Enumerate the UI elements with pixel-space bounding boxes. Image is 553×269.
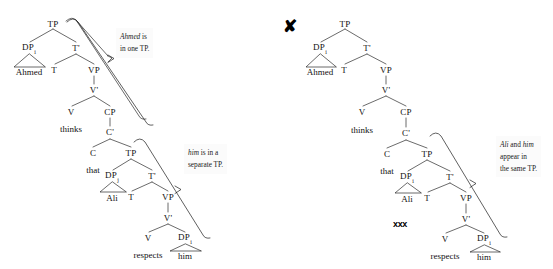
- tree-node-t: T: [51, 66, 57, 75]
- tree-node-vp: VP: [460, 194, 472, 203]
- tree-terminal-ahmed: Ahmed: [307, 68, 334, 77]
- annotation-text: is: [140, 32, 147, 41]
- tree-node-v: V: [68, 108, 75, 117]
- annotation-ali-him-same-tp: Ali and himappear inthe same TP.: [496, 136, 541, 177]
- tree-node-tbar: T': [148, 172, 156, 181]
- annotation-text: in one TP.: [120, 44, 149, 53]
- annotation-line: Ahmed is: [120, 31, 149, 43]
- tree-terminal-him: him: [477, 253, 491, 262]
- annotation-italic-term: him: [188, 148, 199, 157]
- tree-node-cbar: C': [106, 128, 114, 137]
- annotation-text: the same TP.: [500, 164, 537, 173]
- tree-node-vbar: V': [90, 86, 99, 95]
- tree-terminal-respects: respects: [134, 251, 163, 260]
- tree-node-vbar: V': [382, 86, 391, 95]
- tree-terminal-ahmed: Ahmed: [16, 68, 43, 77]
- annotation-italic-term: him: [523, 140, 534, 149]
- tree-node-v: V: [359, 108, 366, 117]
- tree-node-vbar: V': [462, 215, 471, 224]
- annotation-text: appear in: [500, 152, 527, 161]
- tree-node-tp: TP: [340, 20, 351, 29]
- annotation-him-separate-tp: him is in aseparate TP.: [184, 144, 227, 174]
- syntax-tree-figure: TPDPiT'TVPV'VCPC'CTPDPjT'TVPV'VDPiAhmedt…: [0, 0, 553, 269]
- tree-node-dp: DPi: [22, 43, 36, 54]
- tree-terminal-that: that: [86, 166, 100, 175]
- annotation-line: in one TP.: [120, 43, 149, 55]
- tree-node-dp: DPi: [477, 234, 491, 245]
- tree-node-vp: VP: [88, 66, 100, 75]
- tree-node-t: T: [128, 193, 134, 202]
- tree-node-dp: DPi: [178, 233, 192, 244]
- annotation-text: is in a: [199, 148, 218, 157]
- tree-node-tp: TP: [422, 150, 433, 159]
- tree-terminal-ali: Ali: [106, 194, 118, 203]
- annotation-line: the same TP.: [500, 163, 537, 175]
- annotation-line: appear in: [500, 151, 537, 163]
- tree-node-tp: TP: [48, 20, 59, 29]
- tree-node-dp: DPi: [400, 172, 414, 183]
- annotation-italic-term: Ahmed: [120, 32, 140, 41]
- tree-node-v: V: [145, 234, 152, 243]
- tree-node-vp: VP: [162, 193, 174, 202]
- tree-node-c: C: [90, 149, 96, 158]
- tree-terminal-respects: respects: [431, 252, 460, 261]
- tree-terminal-thinks: thinks: [351, 126, 373, 135]
- tree-terminal-him: him: [178, 252, 192, 261]
- tree-node-cp: CP: [104, 108, 115, 117]
- node-index-subscript: i: [489, 240, 491, 246]
- node-index-subscript: i: [412, 178, 414, 184]
- annotation-line: separate TP.: [188, 159, 223, 171]
- node-index-subscript: i: [325, 49, 327, 55]
- tree-node-tbar: T': [72, 44, 80, 53]
- annotation-text: and: [509, 140, 523, 149]
- node-index-subscript: j: [117, 177, 119, 183]
- annotation-ahmed-one-tp: Ahmed isin one TP.: [116, 28, 153, 58]
- tree-terminal-ali: Ali: [401, 195, 413, 204]
- left-tree-branches: [14, 29, 201, 251]
- tree-node-cp: CP: [400, 108, 411, 117]
- tree-node-v: V: [442, 235, 449, 244]
- ungrammatical-x-mark: ✘: [283, 18, 297, 35]
- tree-node-dp: DPi: [313, 43, 327, 54]
- tree-node-vbar: V': [164, 214, 173, 223]
- tree-node-vp: VP: [380, 66, 392, 75]
- annotation-text: separate TP.: [188, 160, 223, 169]
- tree-node-cbar: C': [402, 129, 410, 138]
- tree-node-tbar: T': [446, 173, 454, 182]
- node-index-subscript: i: [34, 49, 36, 55]
- annotation-italic-term: Ali: [500, 140, 509, 149]
- tree-node-c: C: [384, 150, 390, 159]
- tree-terminal-thinks: thinks: [60, 125, 82, 134]
- node-index-subscript: i: [190, 239, 192, 245]
- tree-terminal-that: that: [380, 167, 394, 176]
- tree-node-tp: TP: [126, 149, 137, 158]
- tree-node-dp: DPj: [105, 171, 119, 182]
- tree-lines-svg: [0, 0, 553, 269]
- tree-node-t: T: [424, 194, 430, 203]
- tree-node-tbar: T': [363, 44, 371, 53]
- ungrammatical-xxx-mark: xxx: [393, 220, 407, 229]
- tree-node-t: T: [341, 66, 347, 75]
- annotation-line: him is in a: [188, 147, 223, 159]
- annotation-line: Ali and him: [500, 139, 537, 151]
